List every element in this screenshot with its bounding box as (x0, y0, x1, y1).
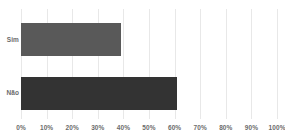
plot-area (21, 9, 277, 119)
category-label-nao: Não (0, 89, 19, 97)
value-axis-tick-label: 100% (262, 123, 285, 132)
bar-nao (21, 77, 177, 110)
gridline (226, 9, 227, 119)
category-label-sim: Sim (0, 36, 19, 44)
gridline (277, 9, 278, 119)
gridline (200, 9, 201, 119)
gridline (251, 9, 252, 119)
value-axis-tick-labels: 0%10%20%30%40%50%60%70%80%90%100% (0, 123, 285, 135)
bar-sim (21, 23, 121, 56)
bar-chart: Sim Não 0%10%20%30%40%50%60%70%80%90%100… (0, 0, 285, 140)
